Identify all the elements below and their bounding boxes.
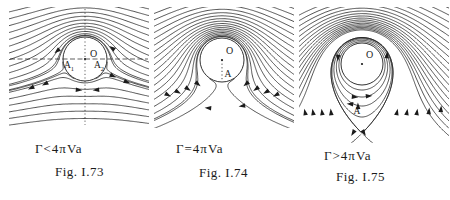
arrowhead-icon bbox=[394, 108, 400, 115]
arrowhead-icon bbox=[242, 80, 250, 88]
three-panel-flow-figure: OA1A2 OA OA Γ<4πVa Fig. I.73 Γ=4πVa Fig.… bbox=[0, 0, 450, 200]
caption-gamma-equal: Γ=4πVa bbox=[176, 141, 224, 157]
stagnation-point-label: A bbox=[225, 69, 232, 79]
center-dot bbox=[84, 58, 86, 60]
streamline-panel-3: OA bbox=[299, 7, 449, 143]
center-label: O bbox=[90, 48, 97, 59]
fig-label-73: Fig. I.73 bbox=[55, 164, 104, 180]
arrowhead-icon bbox=[238, 103, 245, 108]
arrowhead-icon bbox=[174, 88, 182, 95]
arrowhead-icon bbox=[352, 94, 359, 99]
flow-arrows bbox=[164, 80, 280, 110]
arrowhead-icon bbox=[310, 108, 316, 115]
arrowhead-icon bbox=[414, 108, 419, 115]
center-dot bbox=[361, 63, 363, 65]
stagnation-point-label: A bbox=[354, 106, 361, 116]
caption-gamma-greater: Γ>4πVa bbox=[324, 148, 372, 164]
arrowhead-icon bbox=[404, 108, 410, 115]
center-dot bbox=[221, 59, 223, 61]
streamline-panel-1: OA1A2 bbox=[9, 7, 149, 128]
streamline-panel-2: OA bbox=[154, 7, 294, 128]
arrowhead-icon bbox=[204, 105, 211, 110]
center-label: O bbox=[226, 45, 233, 56]
center-label: O bbox=[366, 49, 373, 60]
arrowhead-icon bbox=[349, 129, 356, 137]
arrowhead-icon bbox=[319, 108, 324, 115]
arrowhead-icon bbox=[302, 108, 308, 115]
arrowhead-icon bbox=[328, 108, 333, 115]
fig-label-74: Fig. I.74 bbox=[199, 165, 248, 181]
caption-gamma-less: Γ<4πVa bbox=[35, 141, 83, 157]
arrowhead-icon bbox=[184, 85, 192, 93]
arrowhead-icon bbox=[262, 88, 270, 95]
fig-label-75: Fig. I.75 bbox=[336, 169, 385, 185]
arrowhead-icon bbox=[252, 85, 260, 93]
arrowhead-icon bbox=[76, 87, 83, 92]
arrowhead-icon bbox=[92, 87, 99, 92]
